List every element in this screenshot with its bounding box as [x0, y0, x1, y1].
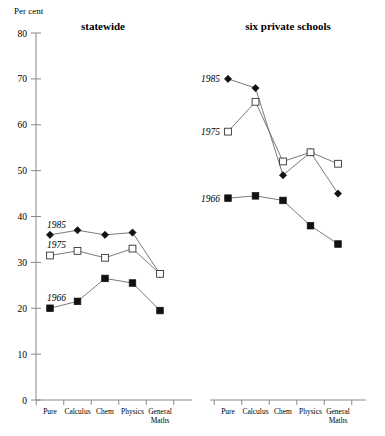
data-point-marker: [129, 280, 136, 287]
data-point-marker: [225, 128, 232, 135]
data-point-marker: [225, 195, 232, 202]
series-line: [50, 278, 160, 310]
y-axis-tick-label: 0: [22, 396, 27, 406]
y-axis-tick-label: 70: [18, 74, 28, 84]
x-axis-category-label: Pure: [43, 407, 57, 416]
series-label-1985: 1985: [47, 220, 66, 230]
y-axis-tick-label: 40: [18, 212, 28, 222]
x-axis-category-label: Chem: [274, 407, 292, 416]
data-point-marker: [307, 149, 314, 156]
data-point-marker: [129, 245, 136, 252]
x-axis-category-label: Calculus: [242, 407, 268, 416]
x-axis-category-label: Maths: [151, 416, 170, 425]
x-axis-category-label: Physics: [121, 407, 144, 416]
y-axis-tick-label: 50: [18, 166, 28, 176]
data-point-marker: [157, 307, 164, 314]
data-point-marker: [47, 252, 54, 259]
data-point-marker: [101, 231, 108, 238]
x-axis-category-label: General: [326, 407, 350, 416]
panel-title: six private schools: [245, 20, 331, 32]
data-point-marker: [280, 158, 287, 165]
y-axis-tick-label: 30: [18, 258, 28, 268]
data-point-marker: [252, 98, 259, 105]
x-axis-category-label: Chem: [96, 407, 114, 416]
data-point-marker: [102, 254, 109, 261]
series-line: [228, 102, 338, 164]
data-point-marker: [224, 75, 231, 82]
series-1975-statewide: 1975: [47, 240, 164, 277]
series-label-1975: 1975: [201, 127, 220, 137]
x-axis-category-label: Calculus: [64, 407, 90, 416]
data-point-marker: [74, 298, 81, 305]
data-point-marker: [252, 193, 259, 200]
series-1966-statewide: 1966: [47, 275, 164, 314]
y-axis-unit-label: Per cent: [14, 6, 44, 16]
x-axis-category-label: Pure: [221, 407, 235, 416]
series-1966-six-private-schools: 1966: [201, 193, 341, 248]
series-label-1966: 1966: [47, 293, 66, 303]
series-label-1985: 1985: [201, 74, 220, 84]
x-axis-category-label: Maths: [329, 416, 348, 425]
x-axis-category-label: Physics: [299, 407, 322, 416]
data-point-marker: [335, 160, 342, 167]
y-axis-tick-label: 60: [18, 120, 28, 130]
chart-svg: Per centstatewide01020304050607080PureCa…: [0, 0, 385, 436]
chart-panel-statewide: statewide01020304050607080PureCalculusCh…: [18, 20, 193, 425]
series-label-1966: 1966: [201, 194, 220, 204]
panel-title: statewide: [81, 20, 125, 32]
data-point-marker: [47, 305, 54, 312]
data-point-marker: [157, 270, 164, 277]
data-point-marker: [334, 190, 341, 197]
data-point-marker: [102, 275, 109, 282]
y-axis-tick-label: 10: [18, 350, 28, 360]
series-1975-six-private-schools: 1975: [201, 98, 341, 167]
data-point-marker: [74, 248, 81, 255]
data-point-marker: [307, 222, 314, 229]
data-point-marker: [46, 231, 53, 238]
data-point-marker: [252, 84, 259, 91]
y-axis-tick-label: 20: [18, 304, 28, 314]
data-point-marker: [335, 241, 342, 248]
chart-container: Per centstatewide01020304050607080PureCa…: [0, 0, 385, 436]
data-point-marker: [74, 227, 81, 234]
series-label-1975: 1975: [47, 240, 66, 250]
chart-panel-six-private-schools: six private schoolsPureCalculusChemPhysi…: [201, 20, 366, 425]
y-axis-tick-label: 80: [18, 29, 28, 39]
data-point-marker: [280, 197, 287, 204]
data-point-marker: [129, 229, 136, 236]
x-axis-category-label: General: [148, 407, 172, 416]
